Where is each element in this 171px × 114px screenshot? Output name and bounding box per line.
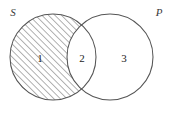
left-set-label: S — [10, 6, 16, 18]
region-1-label: 1 — [37, 52, 43, 64]
venn-diagram-figure: S P 1 2 3 — [0, 0, 171, 114]
region-3-label: 3 — [121, 52, 127, 64]
region-2-label: 2 — [79, 52, 85, 64]
right-set-label: P — [155, 6, 163, 18]
venn-diagram-canvas: S P 1 2 3 — [0, 0, 171, 114]
